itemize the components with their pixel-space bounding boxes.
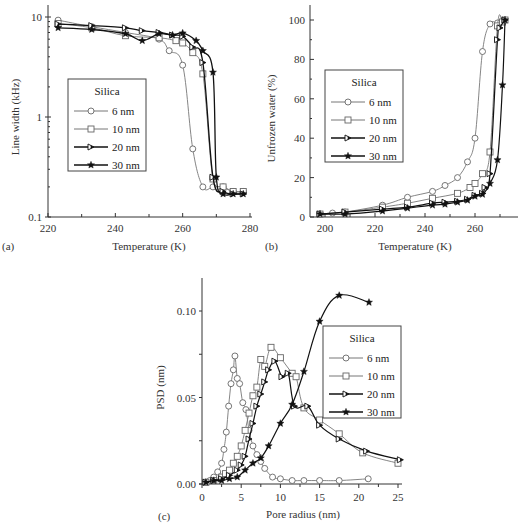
y-tick-label: 0	[300, 211, 306, 223]
open-square-marker	[250, 393, 256, 399]
open-square-marker	[345, 117, 351, 123]
y-tick-label: 0.10	[177, 305, 197, 317]
y-tick-label: 40	[294, 132, 306, 144]
legend-entry-label: 30 nm	[367, 406, 395, 418]
open-circle-marker	[237, 381, 243, 387]
x-tick-label: 260	[467, 222, 484, 234]
open-circle-marker	[270, 474, 276, 480]
open-circle-marker	[455, 175, 461, 181]
star-marker	[336, 292, 343, 299]
y-tick-label: 20	[294, 172, 306, 184]
y-tick-label: 60	[294, 93, 306, 105]
x-axis-label: Temperature (K)	[378, 240, 452, 253]
figure-canvas: 0.1110220240260280Temperature (K)Line wi…	[0, 0, 522, 532]
y-tick-label: 100	[289, 14, 306, 26]
legend-entry-label: 6 nm	[369, 96, 392, 108]
legend-entry-label: 6 nm	[112, 105, 135, 117]
open-circle-marker	[166, 48, 172, 54]
open-circle-marker	[262, 465, 268, 471]
legend-entry-label: 20 nm	[369, 132, 397, 144]
open-square-marker	[190, 50, 196, 56]
legend-entry-label: 10 nm	[369, 114, 397, 126]
x-tick-label: 200	[317, 222, 334, 234]
star-marker	[316, 318, 323, 325]
y-tick-label: 80	[294, 53, 306, 65]
star-marker	[139, 37, 146, 44]
open-square-marker	[254, 384, 260, 390]
x-tick-label: 15	[314, 491, 326, 503]
y-axis-label: Line width (kHz)	[9, 78, 22, 155]
legend-title: Silica	[349, 332, 374, 344]
open-square-marker	[180, 40, 186, 46]
open-circle-marker	[230, 367, 236, 373]
open-square-marker	[258, 356, 264, 362]
y-tick-label: 0.00	[177, 478, 197, 490]
star-marker	[234, 473, 241, 480]
open-circle-marker	[228, 381, 234, 387]
open-circle-marker	[301, 478, 307, 484]
panel-label: (b)	[265, 240, 278, 253]
open-circle-marker	[317, 478, 323, 484]
open-circle-marker	[219, 460, 225, 466]
x-axis-label: Temperature (K)	[112, 240, 186, 253]
x-tick-label: 20	[353, 491, 365, 503]
panel-label: (a)	[2, 240, 15, 253]
legend-entry-label: 10 nm	[112, 123, 140, 135]
open-circle-marker	[365, 476, 371, 482]
open-circle-marker	[250, 443, 256, 449]
open-circle-marker	[336, 478, 342, 484]
open-square-marker	[336, 431, 342, 437]
x-tick-label: 10	[275, 491, 287, 503]
open-circle-marker	[240, 400, 246, 406]
open-circle-marker	[180, 62, 186, 68]
open-circle-marker	[487, 21, 493, 27]
open-circle-marker	[223, 429, 229, 435]
legend-entry-label: 10 nm	[367, 370, 395, 382]
y-axis-label: PSD (nm)	[154, 365, 167, 410]
x-tick-label: 220	[367, 222, 384, 234]
legend-title: Silica	[351, 76, 376, 88]
legend-entry-label: 6 nm	[367, 352, 390, 364]
open-square-marker	[238, 443, 244, 449]
panel-label: (c)	[158, 510, 171, 523]
open-circle-marker	[200, 184, 206, 190]
open-square-marker	[230, 460, 236, 466]
open-square-marker	[455, 190, 461, 196]
open-square-marker	[234, 453, 240, 459]
open-circle-marker	[226, 403, 232, 409]
open-square-marker	[343, 373, 349, 379]
legend-entry-label: 20 nm	[112, 141, 140, 153]
legend-entry-label: 20 nm	[367, 388, 395, 400]
open-circle-marker	[442, 182, 448, 188]
chart-panel-c: 0.000.050.100510152025Pore radius (nm)PS…	[154, 278, 404, 523]
open-square-marker	[226, 467, 232, 473]
open-circle-marker	[465, 159, 471, 165]
x-tick-label: 240	[107, 222, 124, 234]
x-tick-label: 5	[238, 491, 244, 503]
open-circle-marker	[232, 353, 238, 359]
star-marker	[277, 420, 284, 427]
star-marker	[265, 442, 272, 449]
x-tick-label: 220	[40, 222, 57, 234]
legend-entry-label: 30 nm	[369, 150, 397, 162]
star-marker	[300, 368, 307, 375]
open-circle-marker	[405, 194, 411, 200]
open-circle-marker	[88, 108, 94, 114]
x-tick-label: 0	[199, 491, 205, 503]
open-circle-marker	[480, 49, 486, 55]
open-circle-marker	[289, 478, 295, 484]
star-marker	[365, 299, 372, 306]
y-tick-label: 1	[37, 111, 43, 123]
x-tick-label: 240	[417, 222, 434, 234]
open-square-marker	[246, 410, 252, 416]
legend-title: Silica	[94, 85, 119, 97]
legend-entry-label: 30 nm	[112, 159, 140, 171]
x-tick-label: 25	[393, 491, 405, 503]
open-square-marker	[268, 344, 274, 350]
open-square-marker	[472, 181, 478, 187]
open-square-marker	[277, 355, 283, 361]
open-circle-marker	[472, 135, 478, 141]
open-square-marker	[242, 427, 248, 433]
open-circle-marker	[277, 476, 283, 482]
open-circle-marker	[343, 355, 349, 361]
